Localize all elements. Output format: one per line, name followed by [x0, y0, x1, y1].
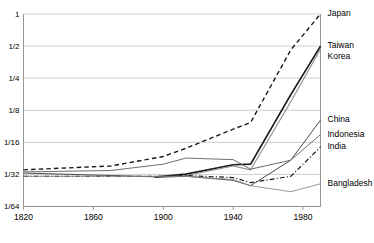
- y-tick-label-2: 1/4: [8, 74, 20, 83]
- x-tick-label-0: 1820: [14, 212, 33, 222]
- y-tick-label-4: 1/16: [4, 138, 20, 147]
- series-line-bangladesh: [24, 176, 321, 191]
- series-line-japan: [24, 14, 321, 170]
- y-tick-label-0: 1: [15, 10, 20, 19]
- y-tick-label-5: 1/32: [4, 170, 20, 179]
- series-label-indonesia: Indonesia: [328, 129, 365, 139]
- line-chart: 11/21/41/81/161/321/64182018601900194019…: [0, 0, 374, 243]
- series-label-taiwan: Taiwan: [328, 40, 355, 50]
- series-line-korea: [182, 49, 320, 176]
- series-label-india: India: [328, 141, 347, 151]
- x-tick-label-4: 1980: [294, 212, 313, 222]
- x-tick-label-2: 1900: [154, 212, 173, 222]
- y-tick-label-3: 1/8: [8, 106, 20, 115]
- y-tick-label-6: 1/64: [4, 202, 20, 211]
- chart-container: 11/21/41/81/161/321/64182018601900194019…: [0, 0, 374, 243]
- x-tick-label-1: 1860: [84, 212, 103, 222]
- series-line-indonesia: [24, 135, 321, 172]
- series-label-bangladesh: Bangladesh: [328, 178, 373, 188]
- y-tick-label-1: 1/2: [8, 42, 20, 51]
- series-label-japan: Japan: [328, 8, 351, 18]
- series-label-korea: Korea: [328, 51, 351, 61]
- x-tick-label-3: 1940: [224, 212, 243, 222]
- series-line-taiwan: [155, 46, 321, 177]
- series-label-china: China: [328, 114, 350, 124]
